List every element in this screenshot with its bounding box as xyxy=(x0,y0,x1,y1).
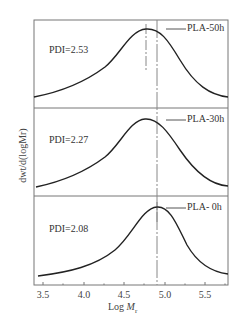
x-axis-title: Log Mr xyxy=(108,301,137,315)
curve-pla-50h xyxy=(34,29,228,97)
curve-pla-0h xyxy=(38,207,228,276)
x-tick-label: 4.0 xyxy=(78,289,91,300)
series-label-30h: PLA-30h xyxy=(187,113,224,124)
y-axis-title: dwt/d(logMr) xyxy=(17,106,28,206)
pdi-label-30h: PDI=2.27 xyxy=(49,134,88,145)
chart-canvas xyxy=(0,0,241,320)
plot-frame xyxy=(34,20,228,285)
x-axis-title-italic: M xyxy=(127,301,135,312)
pdi-label-50h: PDI=2.53 xyxy=(49,44,88,55)
x-tick-label: 3.5 xyxy=(37,289,50,300)
x-tick-label: 5.0 xyxy=(159,289,172,300)
x-axis-title-sub: r xyxy=(135,307,137,315)
series-label-0h: PLA- 0h xyxy=(187,201,222,212)
curve-pla-30h xyxy=(36,119,228,187)
x-axis-title-text: Log xyxy=(108,301,127,312)
series-label-50h: PLA-50h xyxy=(187,22,224,33)
x-tick-label: 5.5 xyxy=(199,289,212,300)
x-tick-label: 4.5 xyxy=(118,289,131,300)
pdi-label-0h: PDI=2.08 xyxy=(49,223,88,234)
